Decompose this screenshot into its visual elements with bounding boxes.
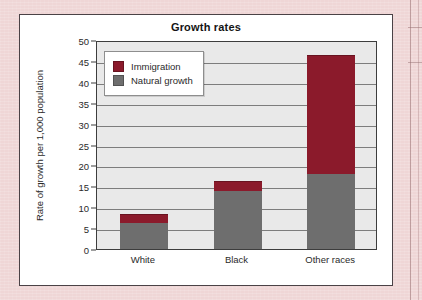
y-axis-tick-label: 20 bbox=[78, 161, 89, 172]
y-axis-tick-label: 5 bbox=[84, 224, 89, 235]
chart-legend: ImmigrationNatural growth bbox=[104, 51, 204, 96]
y-axis-title: Rate of growth per 1,000 population bbox=[32, 41, 48, 250]
x-axis-tick-label: White bbox=[131, 254, 155, 265]
y-axis-tick-label: 10 bbox=[78, 203, 89, 214]
bar-segment-natural-growth[interactable] bbox=[307, 174, 355, 249]
legend-swatch-icon bbox=[113, 61, 124, 72]
bar-stack[interactable] bbox=[307, 55, 355, 249]
bar-segment-immigration[interactable] bbox=[120, 214, 168, 222]
chart-card: Growth rates Rate of growth per 1,000 po… bbox=[19, 14, 393, 286]
y-axis-tick-label: 40 bbox=[78, 77, 89, 88]
bar-stack[interactable] bbox=[120, 214, 168, 249]
y-axis-tick-label: 25 bbox=[78, 140, 89, 151]
y-axis-tick-label: 35 bbox=[78, 98, 89, 109]
x-axis-tick-label: Black bbox=[225, 254, 248, 265]
legend-item-label: Immigration bbox=[131, 61, 181, 72]
bar-segment-immigration[interactable] bbox=[307, 55, 355, 174]
bar-segment-immigration[interactable] bbox=[214, 181, 262, 191]
right-margin-hrule-top bbox=[408, 27, 422, 28]
y-axis-tick-label: 45 bbox=[78, 56, 89, 67]
page-root: Growth rates Rate of growth per 1,000 po… bbox=[0, 0, 422, 300]
bar-segment-natural-growth[interactable] bbox=[120, 223, 168, 249]
y-axis-tick-label: 50 bbox=[78, 36, 89, 47]
y-axis: 05101520253035404550 bbox=[66, 41, 96, 250]
y-axis-tick-label: 0 bbox=[84, 245, 89, 256]
right-margin-rule-outer bbox=[410, 0, 411, 300]
y-axis-title-text: Rate of growth per 1,000 population bbox=[35, 70, 46, 221]
y-axis-tick-label: 30 bbox=[78, 119, 89, 130]
bar-segment-natural-growth[interactable] bbox=[214, 191, 262, 249]
x-axis-tick-label: Other races bbox=[305, 254, 355, 265]
y-axis-tick-label: 15 bbox=[78, 182, 89, 193]
legend-swatch-icon bbox=[113, 75, 124, 86]
legend-item[interactable]: Immigration bbox=[113, 61, 193, 72]
legend-item-label: Natural growth bbox=[131, 75, 193, 86]
x-axis: WhiteBlackOther races bbox=[96, 252, 377, 270]
bar-stack[interactable] bbox=[214, 181, 262, 249]
legend-item[interactable]: Natural growth bbox=[113, 75, 193, 86]
chart-title: Growth rates bbox=[20, 21, 392, 33]
right-margin-hrule-mid bbox=[408, 62, 422, 63]
right-margin-rule-inner bbox=[418, 0, 419, 300]
